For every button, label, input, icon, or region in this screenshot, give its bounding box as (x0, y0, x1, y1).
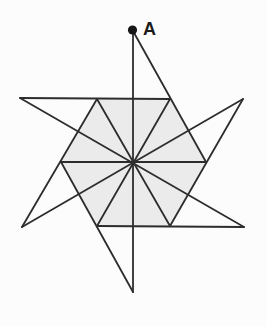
figure-lines-group (20, 31, 244, 292)
point-A-dot (128, 25, 137, 34)
point-a-label: A (143, 19, 156, 39)
marked-point-group (128, 25, 137, 34)
pinwheel-star-figure: A (0, 0, 266, 326)
figure-canvas: A (0, 0, 266, 326)
top-edge-extended (20, 98, 170, 99)
